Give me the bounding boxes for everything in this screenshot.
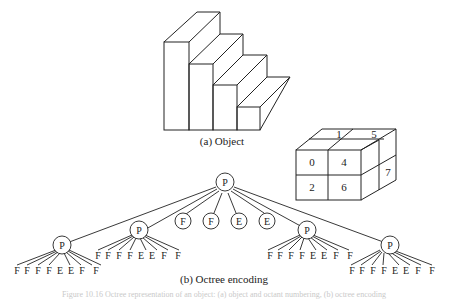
svg-text:P: P <box>387 240 393 251</box>
octant-2: 2 <box>309 181 315 193</box>
svg-text:F: F <box>267 250 273 261</box>
svg-text:E: E <box>403 265 409 276</box>
svg-text:F: F <box>93 265 99 276</box>
child-node-3: F <box>175 213 191 229</box>
octant-1: 1 <box>336 128 342 140</box>
svg-text:E: E <box>264 216 270 227</box>
object-caption: (a) Object <box>200 135 244 148</box>
svg-text:E: E <box>310 250 316 261</box>
svg-text:F: F <box>35 265 41 276</box>
svg-text:F: F <box>127 250 133 261</box>
svg-text:E: E <box>236 216 242 227</box>
octree-nodes: P P P F F E E P <box>53 173 399 254</box>
octree-edges <box>17 187 432 265</box>
octant-0: 0 <box>309 156 315 168</box>
child-node-8: P <box>381 236 399 254</box>
leaves-node-8: F F F F E E F F <box>349 265 435 276</box>
svg-text:F: F <box>277 250 283 261</box>
leaves-node-2: F F F F E E F F <box>95 250 181 261</box>
svg-text:F: F <box>14 265 20 276</box>
svg-text:F: F <box>180 216 186 227</box>
figure-caption: Figure 10.16 Octree representation of an… <box>62 290 386 299</box>
svg-text:F: F <box>175 250 181 261</box>
octree-figure: (a) Object 0 4 2 6 1 5 7 <box>0 0 449 301</box>
svg-text:F: F <box>79 265 85 276</box>
svg-text:F: F <box>370 265 376 276</box>
child-node-6: E <box>259 213 275 229</box>
svg-text:F: F <box>415 265 421 276</box>
child-node-4: F <box>203 213 219 229</box>
svg-text:E: E <box>321 250 327 261</box>
svg-text:F: F <box>349 265 355 276</box>
svg-text:F: F <box>208 216 214 227</box>
svg-text:F: F <box>288 250 294 261</box>
staircase-object <box>164 12 290 130</box>
svg-text:F: F <box>359 265 365 276</box>
svg-text:E: E <box>392 265 398 276</box>
svg-text:F: F <box>24 265 30 276</box>
svg-text:F: F <box>161 250 167 261</box>
svg-text:F: F <box>95 250 101 261</box>
svg-text:P: P <box>136 225 142 236</box>
child-node-5: E <box>231 213 247 229</box>
svg-text:E: E <box>57 265 63 276</box>
svg-text:F: F <box>381 265 387 276</box>
svg-text:F: F <box>347 250 353 261</box>
svg-text:F: F <box>333 250 339 261</box>
svg-text:P: P <box>222 177 228 188</box>
child-node-7: P <box>298 221 316 239</box>
svg-text:E: E <box>138 250 144 261</box>
svg-text:F: F <box>429 265 435 276</box>
svg-text:P: P <box>59 240 65 251</box>
child-node-2: P <box>130 221 148 239</box>
octant-4: 4 <box>341 156 347 168</box>
leaves-node-1: F F F F E E F F <box>14 265 99 276</box>
svg-text:E: E <box>149 250 155 261</box>
svg-text:F: F <box>116 250 122 261</box>
svg-text:F: F <box>46 265 52 276</box>
encoding-caption: (b) Octree encoding <box>180 273 268 286</box>
octant-6: 6 <box>341 181 347 193</box>
svg-text:F: F <box>105 250 111 261</box>
svg-text:F: F <box>299 250 305 261</box>
octant-5: 5 <box>371 128 377 140</box>
leaves-node-7: F F F F E E F F <box>267 250 353 261</box>
svg-text:E: E <box>68 265 74 276</box>
octant-7: 7 <box>385 166 391 178</box>
root-node: P <box>216 173 234 191</box>
svg-text:P: P <box>304 225 310 236</box>
child-node-1: P <box>53 236 71 254</box>
